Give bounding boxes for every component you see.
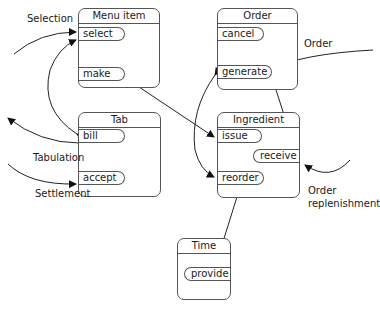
component-order: Order cancel generate bbox=[217, 8, 298, 90]
label-order-replenishment-2: replenishment bbox=[308, 198, 380, 210]
operation-select: select bbox=[79, 27, 125, 41]
operation-make: make bbox=[79, 67, 125, 81]
operation-cancel: cancel bbox=[218, 27, 264, 41]
operation-accept: accept bbox=[79, 171, 125, 185]
component-ingredient: Ingredient issue receive reorder bbox=[217, 112, 300, 198]
label-settlement: Settlement bbox=[35, 188, 90, 200]
component-tab: Tab bill accept bbox=[78, 112, 161, 197]
label-order: Order bbox=[304, 38, 332, 50]
component-title: Order bbox=[218, 9, 297, 24]
component-title: Tab bbox=[79, 113, 160, 128]
operation-bill: bill bbox=[79, 129, 125, 143]
component-menu-item: Menu item select make bbox=[78, 8, 160, 88]
operation-reorder: reorder bbox=[218, 171, 264, 185]
label-order-replenishment-1: Order bbox=[308, 185, 336, 197]
component-time: Time provide bbox=[177, 238, 231, 300]
component-title: Ingredient bbox=[218, 113, 299, 128]
operation-generate: generate bbox=[218, 65, 272, 79]
component-title: Menu item bbox=[79, 9, 159, 24]
operation-issue: issue bbox=[218, 129, 262, 143]
operation-receive: receive bbox=[253, 149, 299, 163]
label-tabulation: Tabulation bbox=[33, 152, 84, 164]
label-selection: Selection bbox=[27, 13, 73, 25]
operation-provide: provide bbox=[184, 267, 230, 281]
component-title: Time bbox=[178, 239, 230, 254]
